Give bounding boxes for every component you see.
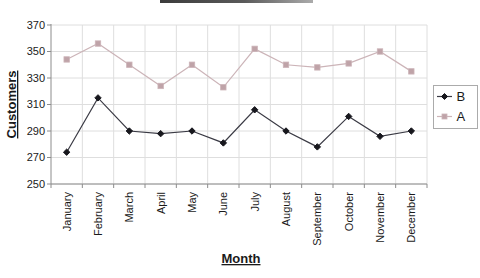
chart-container: 250270290310330350370JanuaryFebruaryMarc… — [0, 0, 480, 278]
x-category-label: April — [155, 192, 167, 214]
x-category-label: September — [311, 192, 323, 246]
legend-B-label: B — [457, 89, 466, 104]
x-category-label: July — [249, 192, 261, 212]
customers-per-month-line-chart: 250270290310330350370JanuaryFebruaryMarc… — [0, 0, 480, 278]
x-category-label: January — [61, 192, 73, 232]
data-point-marker-square — [127, 62, 132, 67]
x-category-label: February — [92, 192, 104, 237]
x-axis-title: Month — [222, 251, 261, 266]
data-point-marker-diamond — [377, 133, 383, 139]
legend-A-label: A — [457, 109, 466, 124]
x-category-label: May — [186, 192, 198, 213]
x-category-label: November — [374, 192, 386, 243]
data-point-marker-square — [346, 61, 351, 66]
y-tick-label: 370 — [27, 19, 45, 31]
data-point-marker-diamond — [63, 149, 69, 155]
y-axis-title: Customers — [4, 71, 19, 139]
data-point-marker-square — [221, 85, 226, 90]
x-category-label: June — [217, 192, 229, 216]
x-category-label: March — [123, 192, 135, 223]
x-category-label: August — [280, 192, 292, 226]
data-point-marker-square — [442, 114, 447, 119]
data-point-marker-diamond — [189, 128, 195, 134]
y-tick-label: 350 — [27, 45, 45, 57]
y-tick-label: 310 — [27, 98, 45, 110]
y-tick-label: 270 — [27, 151, 45, 163]
legend-box — [434, 86, 478, 129]
data-point-marker-diamond — [408, 128, 414, 134]
y-tick-label: 330 — [27, 72, 45, 84]
y-tick-label: 250 — [27, 178, 45, 190]
data-point-marker-square — [377, 49, 382, 54]
data-point-marker-square — [64, 57, 69, 62]
x-category-label: December — [405, 192, 417, 243]
data-point-marker-square — [409, 69, 414, 74]
data-point-marker-square — [252, 46, 257, 51]
data-point-marker-square — [189, 62, 194, 67]
data-point-marker-square — [283, 62, 288, 67]
data-point-marker-square — [95, 41, 100, 46]
x-category-label: October — [343, 192, 355, 231]
y-tick-label: 290 — [27, 125, 45, 137]
data-point-marker-square — [315, 65, 320, 70]
title-underline — [160, 0, 313, 3]
data-point-marker-square — [158, 83, 163, 88]
